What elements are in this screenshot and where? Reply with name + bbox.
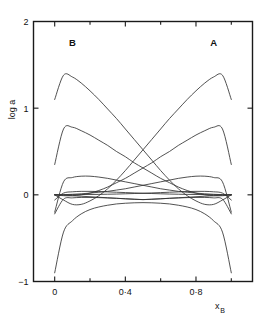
curve-curve-11-bottom-broad-arch <box>55 203 232 273</box>
ytick-label: −1 <box>18 277 28 287</box>
ticks-group <box>34 22 253 282</box>
curve-curve-8-right-shallow <box>55 191 232 200</box>
curves-group <box>55 74 232 273</box>
xtick-label: 0 <box>52 287 57 297</box>
y-axis-title: log a <box>7 100 17 120</box>
xtick-label: 0·4 <box>119 287 132 297</box>
axes-frame <box>34 22 253 282</box>
x-axis-title-subscript: B <box>220 307 225 314</box>
curve-curve-7-left-shallow <box>55 191 232 200</box>
ytick-label: 1 <box>23 104 28 114</box>
annotation-a: A <box>210 37 217 48</box>
labels-group: 00·40·8−1012log axBBA <box>7 17 225 314</box>
xtick-label: 0·8 <box>189 287 202 297</box>
annotation-b: B <box>69 37 76 48</box>
ytick-label: 2 <box>23 17 28 27</box>
ytick-label: 0 <box>23 190 28 200</box>
chart-figure: 00·40·8−1012log axBBA <box>0 0 269 321</box>
x-axis-title: x <box>215 301 220 311</box>
activity-plot: 00·40·8−1012log axBBA <box>0 0 269 321</box>
plot-frame <box>34 22 253 282</box>
